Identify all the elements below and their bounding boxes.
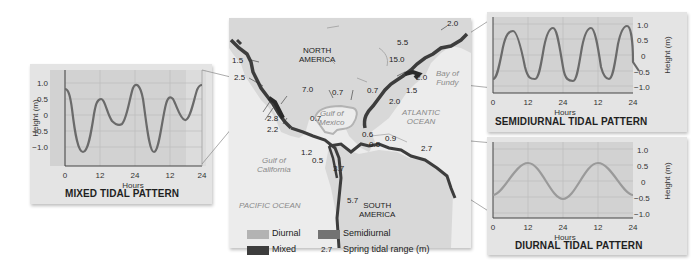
atlantic-ocean-label: ATLANTIC OCEAN <box>402 108 440 126</box>
tidal-range-label: 2.8 <box>267 114 278 123</box>
svg-text:−0.5: −0.5 <box>634 194 650 203</box>
pacific-ocean-label: PACIFIC OCEAN <box>239 201 301 210</box>
svg-text:Height (m): Height (m) <box>663 36 672 74</box>
svg-text:1.0: 1.0 <box>637 146 649 155</box>
map-svg <box>229 18 471 248</box>
tidal-range-label: 2.0 <box>416 73 427 82</box>
gulf-of-mexico-label: Gulf of Mexico <box>319 109 344 127</box>
tidal-range-label: 2.0 <box>447 19 458 28</box>
legend-range-label: Spring tidal range (m) <box>343 244 430 254</box>
legend-semidiurnal-swatch <box>318 230 340 239</box>
svg-text:0: 0 <box>491 223 496 232</box>
tidal-range-label: 0.6 <box>362 130 373 139</box>
tidal-range-label: 2.7 <box>421 144 432 153</box>
svg-text:12: 12 <box>594 223 603 232</box>
svg-text:−1.0: −1.0 <box>634 83 650 92</box>
north-america-landmass <box>229 18 471 152</box>
svg-text:0: 0 <box>491 98 496 107</box>
svg-text:24: 24 <box>559 98 568 107</box>
tidal-range-label: 0.5 <box>312 156 323 165</box>
tidal-range-label: 2.5 <box>234 73 245 82</box>
svg-text:12: 12 <box>524 223 533 232</box>
gulf-of-california-label: Gulf of California <box>257 156 291 174</box>
tidal-range-label: 0.9 <box>385 134 396 143</box>
semidiurnal-panel-title: SEMIDIURNAL TIDAL PATTERN <box>495 116 647 127</box>
svg-text:1.0: 1.0 <box>637 21 649 30</box>
semidiurnal-tidal-chart: 1.0 0.5 0 −0.5 −1.0 Height (m) 0 12 24 1… <box>487 12 687 132</box>
svg-text:24: 24 <box>629 98 638 107</box>
svg-text:−1.0: −1.0 <box>634 210 650 219</box>
svg-text:0: 0 <box>641 178 646 187</box>
legend-diurnal-label: Diurnal <box>272 228 301 238</box>
tidal-range-label: 2.2 <box>267 125 278 134</box>
svg-text:12: 12 <box>594 98 603 107</box>
tidal-range-label: 0.7 <box>310 114 321 123</box>
svg-text:Height (m): Height (m) <box>663 162 672 200</box>
tidal-range-label: 15.0 <box>389 55 405 64</box>
legend-range-sample: 2.7 <box>321 245 332 254</box>
svg-text:0.5: 0.5 <box>637 36 649 45</box>
svg-text:24: 24 <box>629 223 638 232</box>
south-america-label: SOUTH AMERICA <box>359 201 395 219</box>
tidal-range-label: 1.5 <box>232 56 243 65</box>
tidal-range-label: 0.5 <box>369 140 380 149</box>
semidiurnal-tidal-panel: 1.0 0.5 0 −0.5 −1.0 Height (m) 0 12 24 1… <box>487 12 687 132</box>
tidal-range-label: 0.7 <box>367 86 378 95</box>
tidal-range-label: 2.0 <box>389 97 400 106</box>
tidal-range-label: 5.7 <box>347 196 358 205</box>
tidal-range-label: 5.5 <box>397 38 408 47</box>
tidal-map-panel: NORTH AMERICA SOUTH AMERICA Gulf of Mexi… <box>229 18 471 248</box>
tidal-range-label: 0.7 <box>332 88 343 97</box>
tidal-range-label: 7.0 <box>302 85 313 94</box>
diurnal-tidal-chart: 1.0 0.5 0 −0.5 −1.0 Height (m) 0 12 24 1… <box>487 137 687 255</box>
diurnal-tidal-panel: 1.0 0.5 0 −0.5 −1.0 Height (m) 0 12 24 1… <box>487 137 687 255</box>
svg-text:0.5: 0.5 <box>637 162 649 171</box>
bay-of-fundy-label: Bay of Fundy <box>436 69 459 87</box>
svg-text:−0.5: −0.5 <box>634 68 650 77</box>
diurnal-panel-title: DIURNAL TIDAL PATTERN <box>515 240 642 251</box>
tidal-range-label: 1.5 <box>406 86 417 95</box>
svg-text:12: 12 <box>524 98 533 107</box>
legend-diurnal-swatch <box>247 230 269 239</box>
legend-semidiurnal-label: Semidiurnal <box>343 228 391 238</box>
north-america-label: NORTH AMERICA <box>299 46 335 64</box>
tidal-range-label: 3.7 <box>333 164 344 173</box>
svg-text:0: 0 <box>641 52 646 61</box>
svg-text:24: 24 <box>559 223 568 232</box>
legend-mixed-label: Mixed <box>272 244 296 254</box>
legend-mixed-swatch <box>247 246 269 255</box>
tidal-range-label: 1.2 <box>301 148 312 157</box>
